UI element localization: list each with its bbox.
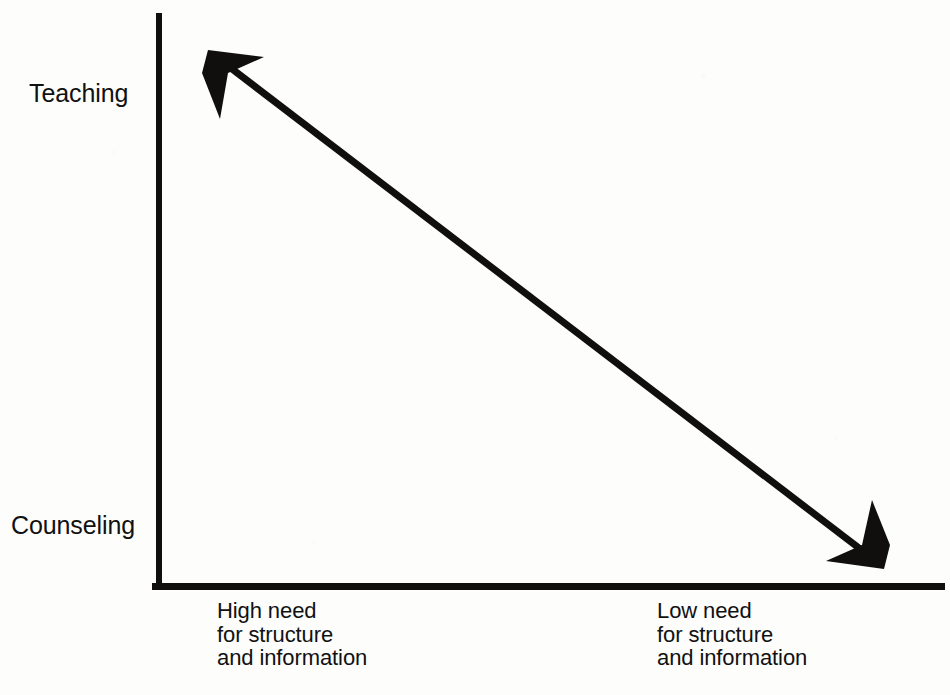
x-axis-label-low-need-line-1: Low need	[657, 599, 807, 623]
continuum-arrow-head-lower-right	[826, 500, 890, 569]
continuum-arrow-group	[202, 50, 890, 569]
y-axis-line	[156, 13, 162, 590]
x-axis-label-high-need-line-2: for structure	[217, 623, 367, 647]
x-axis-label-low-need: Low need for structure and information	[657, 599, 807, 670]
x-axis-label-high-need-line-3: and information	[217, 646, 367, 670]
continuum-arrow-shaft	[219, 59, 872, 558]
y-axis-label-teaching: Teaching	[29, 80, 128, 107]
diagram-canvas: Teaching Counseling High need for struct…	[0, 0, 950, 695]
x-axis-label-low-need-line-3: and information	[657, 646, 807, 670]
x-axis-label-high-need-line-1: High need	[217, 599, 367, 623]
x-axis-label-high-need: High need for structure and information	[217, 599, 367, 670]
continuum-double-arrow	[0, 0, 950, 695]
y-axis-label-counseling: Counseling	[11, 512, 135, 539]
x-axis-line	[152, 583, 945, 590]
continuum-arrow-head-upper-left	[202, 50, 264, 119]
x-axis-label-low-need-line-2: for structure	[657, 623, 807, 647]
